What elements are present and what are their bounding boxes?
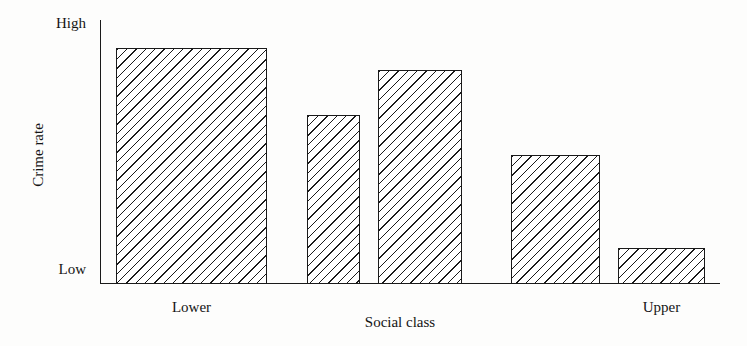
bar-0 (116, 48, 267, 284)
bar-3 (511, 155, 600, 284)
bar-chart-figure: High Low Crime rate Social class Lower U… (0, 0, 747, 346)
bar-1 (307, 115, 360, 284)
x-axis-category-label-upper: Upper (643, 300, 681, 315)
y-axis-tick-high: High (56, 16, 86, 31)
y-axis-title: Crime rate (31, 123, 46, 187)
x-axis-title: Social class (365, 315, 435, 330)
x-axis-category-label-lower: Lower (172, 300, 211, 315)
bar-4 (618, 248, 705, 284)
y-axis-tick-low: Low (59, 262, 87, 277)
bar-2 (378, 70, 462, 284)
y-axis-line (100, 20, 101, 284)
